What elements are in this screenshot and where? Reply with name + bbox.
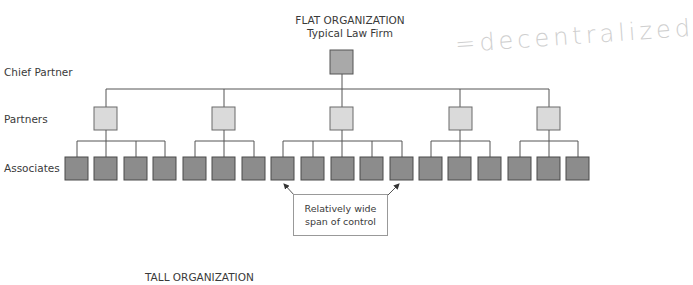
associates-group-3 — [271, 141, 413, 180]
callout-line-2: span of control — [294, 215, 387, 228]
tall-org-title: TALL ORGANIZATION — [145, 271, 254, 283]
span-of-control-callout: Relatively wide span of control — [293, 194, 388, 236]
associates-group-1 — [65, 141, 176, 180]
callout-line-1: Relatively wide — [294, 202, 387, 215]
arrow-right-icon — [387, 184, 399, 196]
partner-box-1 — [94, 107, 117, 130]
partner-box-2 — [212, 107, 235, 130]
associates-group-4 — [419, 141, 501, 180]
partner-box-5 — [537, 107, 560, 130]
chief-partner-box — [330, 50, 353, 74]
associates-group-5 — [508, 141, 589, 180]
partner-box-3 — [330, 107, 353, 130]
partner-box-4 — [449, 107, 472, 130]
associates-group-2 — [183, 141, 265, 180]
